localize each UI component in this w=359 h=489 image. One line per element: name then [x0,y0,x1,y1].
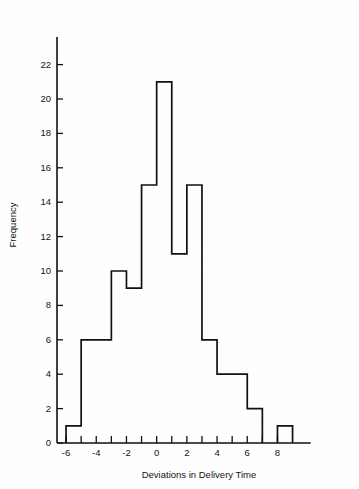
x-tick-label: 4 [214,447,219,458]
y-tick-label: 6 [46,334,51,345]
histogram-bar [96,340,111,443]
y-tick-label: 18 [40,127,51,138]
y-tick-label: 4 [46,368,51,379]
x-tick-label: -6 [62,447,70,458]
y-tick-label: 8 [46,299,51,310]
x-axis-title: Deviations in Delivery Time [142,469,257,480]
y-axis-title: Frequency [7,202,18,247]
histogram-bar [157,82,172,443]
histogram-bar [172,254,187,443]
y-tick-label: 0 [46,437,51,448]
histogram-bar [232,374,247,443]
histogram-bar [247,409,262,443]
x-axis-ticks: -6-4-202468 [62,436,280,458]
histogram-bar [217,374,232,443]
histogram-bar [142,185,157,443]
y-tick-label: 12 [40,231,51,242]
histogram-plot: 0246810121416182022 -6-4-202468 Deviatio… [0,0,359,489]
histogram-bar [277,426,292,443]
y-tick-label: 2 [46,403,51,414]
x-tick-label: 0 [154,447,159,458]
histogram-figure: 0246810121416182022 -6-4-202468 Deviatio… [0,0,359,489]
x-tick-label: -2 [122,447,130,458]
histogram-bar [187,185,202,443]
histogram-bar [66,426,81,443]
x-tick-label: 8 [275,447,280,458]
y-axis-ticks: 0246810121416182022 [40,59,63,448]
y-tick-label: 20 [40,93,51,104]
x-tick-label: 2 [184,447,189,458]
histogram-bar [126,288,141,443]
histogram-bars [66,82,293,443]
histogram-outline [66,82,293,443]
x-tick-label: 6 [245,447,250,458]
axes [57,37,311,443]
histogram-bar [111,271,126,443]
y-tick-label: 10 [40,265,51,276]
x-tick-label: -4 [92,447,100,458]
y-tick-label: 16 [40,162,51,173]
y-tick-label: 14 [40,196,51,207]
histogram-bar [202,340,217,443]
histogram-bar [81,340,96,443]
y-tick-label: 22 [40,59,51,70]
